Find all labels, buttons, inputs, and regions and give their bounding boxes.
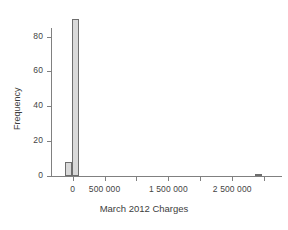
x-tick-mark — [264, 177, 265, 181]
x-axis-line — [51, 176, 282, 177]
y-tick-mark — [47, 37, 51, 38]
x-tick-mark — [232, 177, 233, 181]
x-tick-mark — [200, 177, 201, 181]
y-tick-label: 0 — [0, 170, 43, 180]
x-tick-mark — [105, 177, 106, 181]
histogram-bar — [255, 174, 262, 176]
x-tick-mark — [73, 177, 74, 181]
histogram-bar — [72, 19, 79, 176]
y-tick-mark — [47, 176, 51, 177]
y-tick-label: 80 — [0, 31, 43, 41]
x-tick-mark — [168, 177, 169, 181]
y-tick-label: 20 — [0, 135, 43, 145]
y-tick-mark — [47, 141, 51, 142]
histogram-figure: Frequency March 2012 Charges 020406080 0… — [0, 0, 288, 230]
y-tick-label: 40 — [0, 100, 43, 110]
x-tick-mark — [136, 177, 137, 181]
x-tick-label: 2 500 000 — [88, 184, 288, 194]
x-axis-label: March 2012 Charges — [0, 203, 288, 214]
y-tick-mark — [47, 71, 51, 72]
y-tick-mark — [47, 106, 51, 107]
histogram-bar — [65, 162, 72, 176]
y-axis-line — [51, 28, 52, 176]
y-tick-label: 60 — [0, 65, 43, 75]
